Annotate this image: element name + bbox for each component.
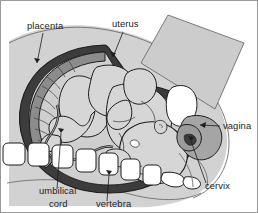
label-placenta: placenta	[27, 20, 64, 31]
label-vertebra: vertebra	[96, 198, 132, 209]
anatomical-diagram-figure: placenta uterus vagina cervix umbilical …	[0, 0, 258, 213]
label-uterus: uterus	[112, 18, 139, 29]
label-umbilical-cord-line-2: cord	[49, 198, 68, 209]
label-umbilical-cord-line-1: umbilical	[39, 185, 76, 196]
uterus-fetus-sagittal-illustration: placenta uterus vagina cervix umbilical …	[1, 1, 257, 212]
label-vagina: vagina	[223, 120, 252, 131]
label-cervix: cervix	[205, 180, 230, 191]
